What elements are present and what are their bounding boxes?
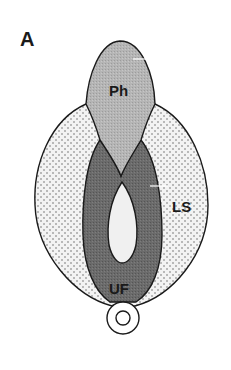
label-ph: Ph xyxy=(109,82,128,99)
label-uf: UF xyxy=(109,280,129,297)
panel-label: A xyxy=(20,28,34,50)
label-ls: LS xyxy=(172,198,191,215)
bottom-ring-inner xyxy=(116,311,130,325)
diagram-figure: A Ph LS UF xyxy=(0,0,231,370)
